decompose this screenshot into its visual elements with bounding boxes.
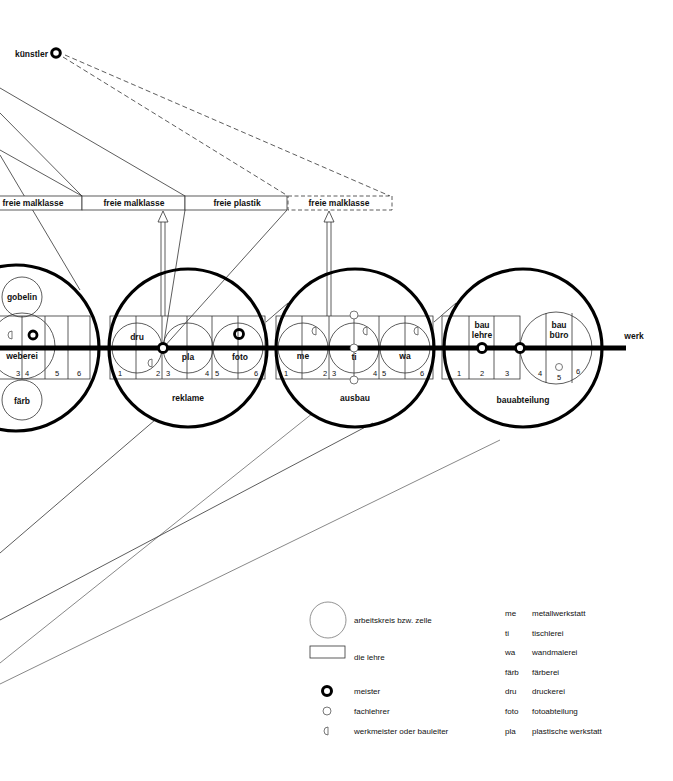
cell-label-baulehre-line2: lehre (472, 330, 493, 340)
grid-number: 6 (77, 369, 81, 378)
cell-label-me: me (297, 351, 310, 361)
cell-label-weberei: weberei (5, 351, 38, 361)
dashed-line (65, 55, 390, 196)
grid-number: 5 (55, 369, 59, 378)
cell-label-baulehre-line1: bau (474, 320, 489, 330)
meister-ring-icon (323, 687, 332, 696)
half-circle-icon (324, 727, 328, 735)
grid-number: 3 (505, 369, 509, 378)
abbr: me (505, 609, 517, 618)
connection-line (0, 150, 82, 196)
abbr-full: metallwerkstatt (532, 609, 586, 618)
legend-label: werkmeister oder bauleiter (353, 727, 449, 736)
half-circle-icon (148, 359, 152, 367)
abbr: wa (504, 648, 516, 657)
connection-line (0, 88, 185, 196)
rectangle-icon (310, 646, 345, 658)
grid-number: 5 (215, 369, 219, 378)
arrow-up-icon (324, 211, 334, 316)
small-circle-icon (350, 344, 358, 352)
class-boxes: freie malklasse freie malklasse freie pl… (0, 196, 392, 316)
department-label-ausbau: ausbau (340, 393, 370, 403)
meister-ring-icon (52, 49, 61, 58)
abbr-full: wandmalerei (531, 648, 578, 657)
abbr-full: fotoabteilung (532, 707, 578, 716)
grid-number: 2 (323, 369, 327, 378)
grid-number: 1 (284, 369, 288, 378)
abbr: pla (505, 727, 516, 736)
connection-line (0, 423, 373, 620)
cell-label-pla: pla (182, 352, 195, 362)
cell-label-wa: wa (398, 351, 411, 361)
grid-number: 2 (480, 369, 484, 378)
cell-label-baubuero-line1: bau (551, 320, 566, 330)
grid-numbers: 3 4 5 6 1 2 3 4 5 6 1 2 3 4 5 6 1 2 3 4 … (16, 367, 580, 382)
half-circle-icon (414, 327, 418, 335)
abbr-full: färberei (532, 668, 559, 677)
department-label-reklame: reklame (172, 393, 204, 403)
grid-number: 3 (332, 369, 336, 378)
circle-icon (310, 602, 346, 638)
connection-line (0, 113, 82, 196)
abbr-full: druckerei (532, 687, 565, 696)
grid-number: 6 (576, 367, 580, 376)
bauhaus-organization-diagram: künstler freie malklasse freie malklasse… (0, 0, 673, 781)
cell-label-dru: dru (130, 332, 144, 342)
meister-ring-icon (516, 344, 525, 353)
grid-number: 2 (156, 369, 160, 378)
kuenstler-node: künstler (15, 49, 390, 196)
abbr-full: tischlerei (532, 629, 564, 638)
legend-symbols: arbeitskreis bzw. zelle die lehre meiste… (310, 602, 449, 736)
legend-label: arbeitskreis bzw. zelle (354, 616, 432, 625)
meister-ring-icon (159, 344, 168, 353)
arrow-up-icon (158, 211, 168, 316)
legend-label: meister (354, 687, 381, 696)
department-labels: reklame ausbau bauabteilung (172, 393, 550, 405)
class-label: freie malklasse (309, 198, 370, 208)
grid-number: 3 (16, 369, 20, 378)
grid-number: 4 (25, 369, 29, 378)
legend-label: fachlehrer (354, 707, 390, 716)
connection-line (0, 440, 500, 684)
cell-label-ti: ti (351, 352, 356, 362)
grid-number: 4 (373, 369, 377, 378)
grid-number: 6 (254, 369, 258, 378)
werk-label: werk (623, 331, 644, 341)
class-label: freie malklasse (3, 198, 64, 208)
small-circle-icon (350, 311, 358, 319)
grid-number: 4 (538, 369, 542, 378)
cell-label-baubuero-line2: büro (550, 330, 569, 340)
small-circle-icon (556, 364, 563, 371)
abbr-full: plastische werkstatt (532, 727, 603, 736)
half-circle-icon (363, 327, 367, 335)
half-circle-icon (8, 331, 12, 339)
dashed-line (63, 57, 288, 196)
kuenstler-label: künstler (15, 49, 49, 59)
half-circle-icon (312, 327, 316, 335)
abbr: dru (505, 687, 517, 696)
class-label: freie plastik (213, 198, 261, 208)
class-label: freie malklasse (104, 198, 165, 208)
grid-number: 1 (118, 369, 122, 378)
cell-label-foto: foto (232, 352, 248, 362)
meister-ring-icon (235, 330, 244, 339)
department-label-bauabteilung: bauabteilung (497, 395, 550, 405)
meister-ring-icon (478, 344, 487, 353)
legend-label: die lehre (354, 653, 385, 662)
small-circle-icon (350, 376, 358, 384)
legend-abbreviations: me metallwerkstatt ti tischlerei wa wand… (504, 609, 603, 736)
abbr: foto (505, 707, 519, 716)
small-circle-icon (323, 707, 331, 715)
grid-number: 6 (420, 369, 424, 378)
grid-number: 5 (382, 369, 386, 378)
grid-number: 4 (205, 369, 209, 378)
cell-label-gobelin: gobelin (7, 292, 37, 302)
cell-label-faerb: färb (14, 396, 30, 406)
connection-line (0, 420, 155, 553)
abbr: ti (505, 629, 509, 638)
meister-ring-icon (29, 331, 37, 339)
grid-number: 5 (557, 373, 561, 382)
abbr: färb (505, 668, 519, 677)
grid-number: 1 (457, 369, 461, 378)
grid-number: 3 (166, 369, 170, 378)
